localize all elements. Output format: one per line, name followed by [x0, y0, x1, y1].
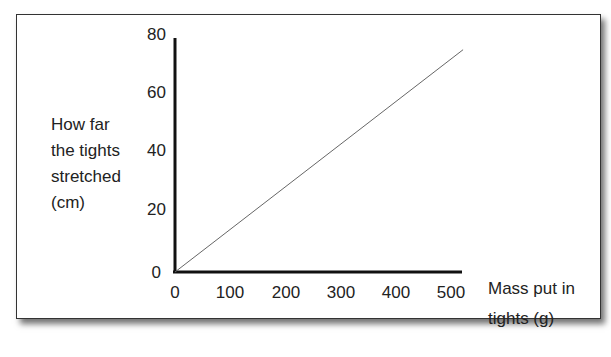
plot-area: [0, 0, 611, 357]
data-line: [175, 50, 463, 272]
